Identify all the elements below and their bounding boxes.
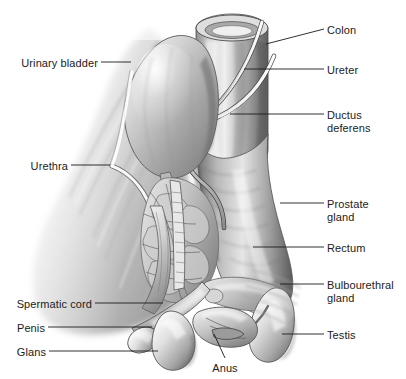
label-colon: Colon bbox=[327, 24, 356, 37]
label-ureter: Ureter bbox=[327, 64, 358, 77]
anatomy-figure: Urinary bladderUrethraSpermatic cordPeni… bbox=[0, 0, 406, 379]
label-testis: Testis bbox=[327, 329, 356, 342]
label-spermatic-cord: Spermatic cord bbox=[0, 298, 92, 311]
label-penis: Penis bbox=[0, 322, 45, 335]
anus bbox=[193, 307, 258, 347]
label-anus: Anus bbox=[185, 362, 265, 375]
label-prostate-gland: Prostate gland bbox=[327, 198, 369, 223]
label-bulbourethral-gland: Bulbourethral gland bbox=[327, 279, 394, 304]
label-glans: Glans bbox=[0, 346, 46, 359]
label-ductus-deferens: Ductus deferens bbox=[327, 109, 406, 134]
label-urethra: Urethra bbox=[0, 160, 68, 173]
label-urinary-bladder: Urinary bladder bbox=[0, 57, 98, 70]
label-rectum: Rectum bbox=[327, 242, 366, 255]
